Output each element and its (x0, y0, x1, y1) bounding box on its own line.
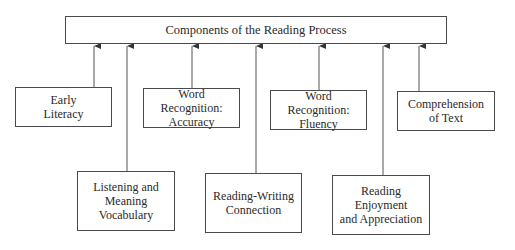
component-comprehension-of-text: Comprehension of Text (397, 91, 495, 131)
diagram-title: Components of the Reading Process (165, 23, 346, 37)
component-word-recognition-fluency: Word Recognition: Fluency (270, 90, 367, 130)
component-word-recognition-accuracy: Word Recognition: Accuracy (143, 88, 240, 128)
component-early-literacy: Early Literacy (15, 87, 112, 127)
component-listening-meaning-vocabulary: Listening and Meaning Vocabulary (77, 171, 175, 231)
component-reading-writing-connection: Reading-Writing Connection (205, 173, 302, 233)
component-reading-enjoyment-appreciation: Reading Enjoyment and Appreciation (332, 175, 430, 235)
title-box: Components of the Reading Process (65, 16, 447, 44)
